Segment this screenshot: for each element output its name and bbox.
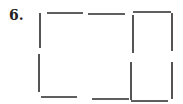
matchstick-diagram (0, 0, 183, 104)
